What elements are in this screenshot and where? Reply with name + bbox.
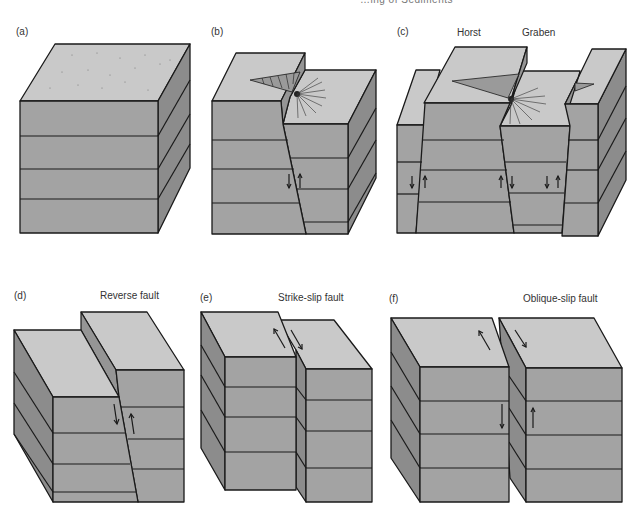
fault-diagrams [0,0,635,516]
block-c-horst-graben [397,47,626,236]
block-a-undisturbed [20,44,190,233]
block-d-reverse-fault [14,312,184,502]
block-f-oblique-slip-fault [391,318,622,502]
block-e-strike-slip-fault [201,312,372,502]
block-b-normal-fault [212,53,376,234]
